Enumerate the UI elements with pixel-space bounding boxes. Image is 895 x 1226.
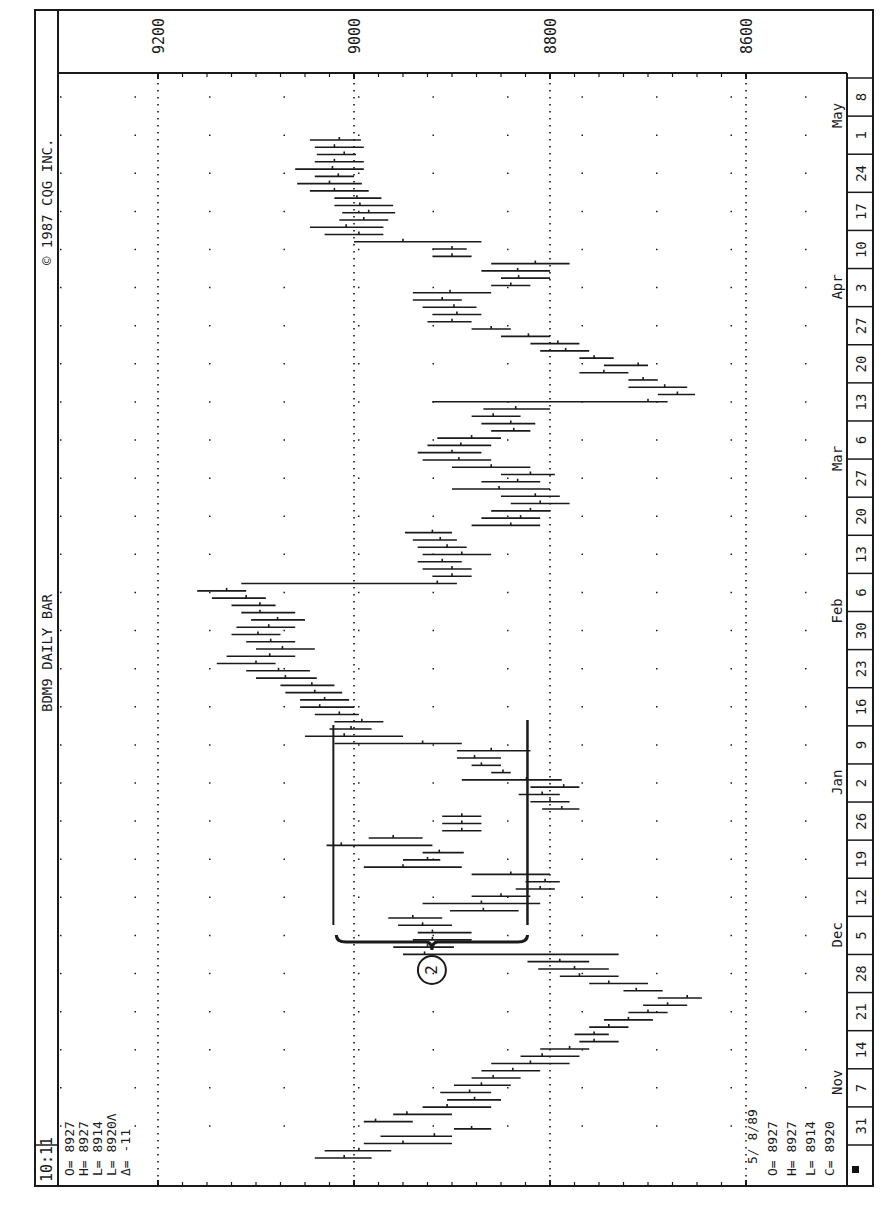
week-tick-label: 13 bbox=[853, 546, 869, 563]
quote-last: L= 8920Λ bbox=[104, 1113, 119, 1176]
ohlc-bars bbox=[197, 137, 702, 1158]
daily-bar-chart: 9200900088008600 31714212851219262916233… bbox=[0, 0, 895, 1226]
week-tick-label: 6 bbox=[853, 436, 869, 444]
week-tick-label: 21 bbox=[853, 1003, 869, 1020]
week-tick-label: 23 bbox=[853, 660, 869, 677]
week-tick-label: 30 bbox=[853, 622, 869, 639]
month-label: Dec bbox=[829, 922, 845, 947]
cursor-marker-icon bbox=[852, 1166, 859, 1173]
cursor-close: C= 8920 bbox=[822, 1121, 837, 1176]
price-label: 9200 bbox=[150, 18, 168, 54]
price-label: 9000 bbox=[346, 18, 364, 54]
month-label: May bbox=[829, 103, 845, 128]
annotation-label: 2 bbox=[422, 965, 441, 975]
week-tick-label: 27 bbox=[853, 470, 869, 487]
cursor-high: H= 8927 bbox=[784, 1121, 799, 1176]
price-axis-labels: 9200900088008600 bbox=[150, 18, 756, 54]
cursor-open: O= 8927 bbox=[765, 1121, 780, 1176]
week-tick-label: 10 bbox=[853, 241, 869, 258]
week-tick-label: 6 bbox=[853, 588, 869, 596]
week-tick-label: 19 bbox=[853, 851, 869, 868]
week-tick-label: 26 bbox=[853, 813, 869, 830]
header-time: 10:11 bbox=[38, 1137, 56, 1182]
week-tick-label: 16 bbox=[853, 699, 869, 716]
week-tick-label: 12 bbox=[853, 889, 869, 906]
week-tick-label: 20 bbox=[853, 508, 869, 525]
month-label: Feb bbox=[829, 598, 845, 623]
outer-frame bbox=[35, 10, 873, 1186]
month-label: Mar bbox=[829, 446, 845, 471]
cursor-quote: 5/ 8/89 O= 8927 H= 8927 L= 8914 C= 8920 bbox=[745, 1109, 837, 1176]
chart-window: 9200900088008600 31714212851219262916233… bbox=[0, 0, 895, 1226]
date-axis: 3171421285121926291623306132027613202731… bbox=[829, 78, 873, 1145]
chart-title: BDM9 DAILY BAR bbox=[39, 593, 55, 712]
price-label: 8800 bbox=[542, 18, 560, 54]
copyright-text: © 1987 CQG INC. bbox=[39, 139, 55, 265]
week-tick-label: 24 bbox=[853, 165, 869, 182]
month-label: Jan bbox=[829, 770, 845, 795]
week-tick-label: 13 bbox=[853, 394, 869, 411]
week-tick-label: 5 bbox=[853, 931, 869, 939]
cursor-low: L= 8914 bbox=[803, 1121, 818, 1176]
quote-change: Δ= -11 bbox=[118, 1129, 133, 1176]
quote-low: L= 8914 bbox=[90, 1121, 105, 1176]
week-tick-label: 3 bbox=[853, 283, 869, 291]
week-tick-label: 1 bbox=[853, 131, 869, 139]
week-tick-label: 31 bbox=[853, 1118, 869, 1135]
month-label: Nov bbox=[829, 1070, 845, 1095]
week-tick-label: 17 bbox=[853, 203, 869, 220]
price-gridlines bbox=[60, 73, 845, 1186]
quote-open: O= 8927 bbox=[62, 1121, 77, 1176]
quote-high: H= 8927 bbox=[76, 1121, 91, 1176]
week-tick-label: 9 bbox=[853, 741, 869, 749]
month-label: Apr bbox=[829, 274, 845, 299]
week-tick-label: 8 bbox=[853, 93, 869, 101]
last-bar-quote: O= 8927 H= 8927 L= 8914 L= 8920Λ Δ= -11 bbox=[62, 1113, 133, 1176]
week-tick-label: 20 bbox=[853, 356, 869, 373]
week-tick-label: 27 bbox=[853, 317, 869, 334]
week-tick-label: 2 bbox=[853, 779, 869, 787]
week-tick-label: 28 bbox=[853, 965, 869, 982]
week-tick-label: 14 bbox=[853, 1041, 869, 1058]
cursor-date: 5/ 8/89 bbox=[745, 1109, 760, 1164]
price-label: 8600 bbox=[738, 18, 756, 54]
week-tick-label: 7 bbox=[853, 1084, 869, 1092]
